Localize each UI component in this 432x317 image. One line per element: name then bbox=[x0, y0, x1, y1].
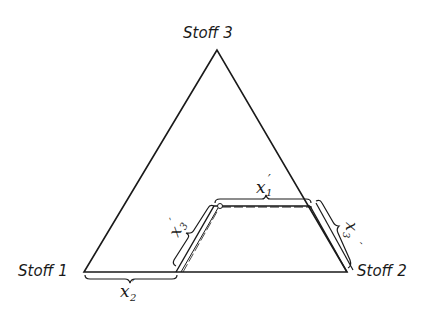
trapezoid-right-inner bbox=[310, 206, 347, 272]
svg-text:x: x bbox=[120, 281, 130, 301]
brace-label-top: x 1 ′ bbox=[256, 173, 272, 198]
svg-text:′: ′ bbox=[351, 242, 364, 245]
vertex-label-left: Stoff 1 bbox=[18, 262, 68, 280]
brace-label-left: x 3 ′ bbox=[161, 215, 190, 241]
brace-label-bottom: x 2 ′ bbox=[120, 278, 136, 303]
ternary-diagram: Stoff 3 Stoff 1 Stoff 2 x 1 ′ x 2 ′ x 3 … bbox=[0, 0, 432, 317]
svg-text:x: x bbox=[342, 222, 361, 231]
diagram-canvas: Stoff 3 Stoff 1 Stoff 2 x 1 ′ x 2 ′ x 3 … bbox=[0, 0, 432, 317]
bottom-brace bbox=[85, 275, 177, 283]
vertex-label-right: Stoff 2 bbox=[357, 262, 407, 280]
ternary-triangle bbox=[84, 50, 347, 272]
brace-label-right: x 3 ′ bbox=[341, 222, 364, 245]
svg-text:′: ′ bbox=[132, 278, 135, 292]
trapezoid-solid-outline bbox=[176, 206, 310, 272]
svg-text:x: x bbox=[256, 177, 266, 197]
svg-text:2: 2 bbox=[129, 292, 136, 303]
vertex-label-top: Stoff 3 bbox=[183, 24, 233, 42]
composition-point bbox=[218, 204, 223, 209]
svg-text:′: ′ bbox=[268, 173, 271, 187]
svg-text:3: 3 bbox=[341, 232, 352, 238]
svg-text:1: 1 bbox=[266, 187, 272, 198]
